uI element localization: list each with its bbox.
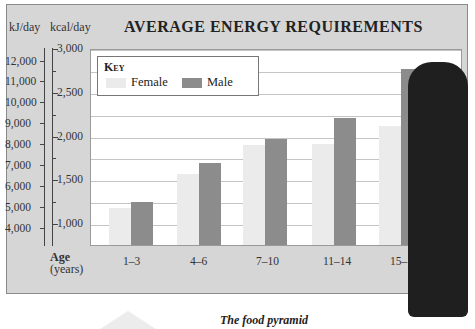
kj-tick — [40, 81, 45, 82]
female-bar — [379, 126, 401, 245]
legend-title: Key — [104, 60, 124, 75]
caption: The food pyramid — [220, 313, 308, 328]
legend: Key Female Male — [97, 56, 259, 96]
kj-tick-label: 9,000 — [5, 117, 31, 129]
male-swatch — [182, 78, 202, 88]
kcal-tick-label: 3,000 — [57, 42, 83, 54]
female-swatch — [106, 78, 126, 88]
kcal-tick-label: 2,000 — [57, 130, 83, 142]
kj-axis-line — [44, 48, 45, 246]
gridline — [91, 50, 461, 51]
female-bar — [312, 144, 334, 245]
kcal-tick-label: 1,500 — [57, 173, 83, 185]
kcal-axis-line — [52, 48, 53, 246]
male-bar — [265, 139, 287, 245]
kcal-tick-label: 1,000 — [57, 217, 83, 229]
kj-tick — [40, 165, 45, 166]
kj-tick-label: 5,000 — [5, 201, 31, 213]
kj-tick-label: 11,000 — [5, 75, 36, 87]
kcal-minor-tick — [52, 158, 56, 159]
kcal-minor-tick — [52, 115, 56, 116]
kj-tick — [40, 207, 45, 208]
teen-boy-photo — [408, 62, 468, 317]
x-axis-title-unit: (years) — [50, 262, 83, 276]
kcal-minor-tick — [52, 202, 56, 203]
male-legend-label: Male — [207, 75, 233, 90]
kj-tick — [40, 61, 45, 62]
female-bar — [177, 174, 199, 245]
male-bar — [199, 163, 221, 245]
kj-tick — [40, 186, 45, 187]
female-bar — [243, 145, 265, 245]
x-axis-title: Age (years) — [50, 251, 83, 275]
kj-tick — [40, 102, 45, 103]
kj-tick-label: 12,000 — [5, 55, 37, 67]
male-bar — [131, 202, 153, 245]
kj-tick — [40, 144, 45, 145]
x-tick-label: 11–14 — [323, 255, 351, 267]
kj-tick-label: 10,000 — [5, 96, 37, 108]
chart-title: AVERAGE ENERGY REQUIREMENTS — [124, 18, 423, 36]
kj-tick — [40, 228, 45, 229]
kj-tick-label: 8,000 — [5, 138, 31, 150]
female-bar — [109, 208, 131, 245]
kj-tick-label: 4,000 — [5, 222, 31, 234]
kcal-unit-label: kcal/day — [50, 20, 91, 35]
kcal-minor-tick — [52, 71, 56, 72]
kj-tick — [40, 123, 45, 124]
x-tick-label: 4–6 — [190, 255, 207, 267]
kj-tick-label: 6,000 — [5, 180, 31, 192]
x-tick-label: 7–10 — [256, 255, 279, 267]
food-pyramid-icon — [100, 311, 156, 329]
kj-unit-label: kJ/day — [9, 20, 40, 35]
female-legend-label: Female — [131, 75, 168, 90]
kcal-tick-label: 2,500 — [57, 86, 83, 98]
x-tick-label: 1–3 — [123, 255, 140, 267]
male-bar — [334, 118, 356, 245]
kj-tick-label: 7,000 — [5, 159, 31, 171]
